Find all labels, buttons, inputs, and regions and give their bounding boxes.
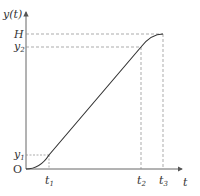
x-tick-t3: t3 (159, 174, 168, 188)
y-axis-label: y(t) (2, 8, 22, 21)
y-t-curve (26, 34, 163, 169)
x-tick-t1: t1 (45, 174, 54, 188)
y-tick-y1: y1 (13, 148, 25, 162)
origin-label: O (13, 163, 22, 176)
y-tick-y2: y2 (13, 40, 25, 54)
x-tick-t2: t2 (137, 174, 146, 188)
motion-profile-diagram: y(t) t O H y2 y1 t1 t2 t3 (0, 0, 200, 196)
x-axis-label: t (183, 176, 188, 189)
